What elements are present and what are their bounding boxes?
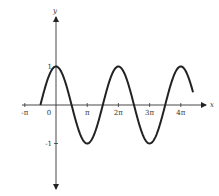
x-tick-label: 2π <box>114 109 123 117</box>
x-tick-label: π <box>85 109 90 117</box>
x-tick-label: 3π <box>145 109 154 117</box>
x-axis-label: x <box>210 101 214 109</box>
x-tick-label: -π <box>21 109 28 117</box>
cosine-chart: -π0π2π3π4π1-1 x y <box>0 0 219 196</box>
x-tick-label: 4π <box>176 109 185 117</box>
x-tick-label: 0 <box>47 109 51 117</box>
y-tick-label: -1 <box>45 140 52 148</box>
y-axis-label: y <box>52 7 58 15</box>
